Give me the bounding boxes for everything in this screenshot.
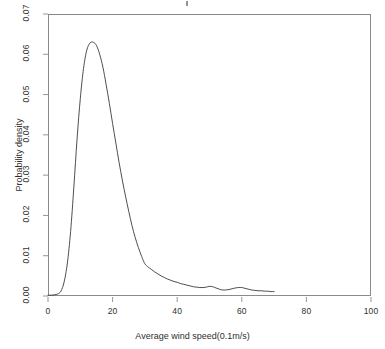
y-axis-ticks xyxy=(43,14,48,296)
x-tick-label: 0 xyxy=(33,306,63,316)
x-axis-ticks xyxy=(48,297,371,302)
density-curve xyxy=(48,42,274,295)
x-tick-label: 80 xyxy=(291,306,321,316)
plot-canvas xyxy=(0,0,385,349)
x-tick-label: 20 xyxy=(98,306,128,316)
y-axis-title: Probability density xyxy=(14,14,24,296)
x-tick-label: 100 xyxy=(356,306,385,316)
x-tick-label: 40 xyxy=(162,306,192,316)
density-plot-figure: 0.000.010.020.030.040.050.060.07 0204060… xyxy=(0,0,385,349)
x-tick-label: 60 xyxy=(227,306,257,316)
x-axis-title: Average wind speed(0.1m/s) xyxy=(0,331,385,341)
